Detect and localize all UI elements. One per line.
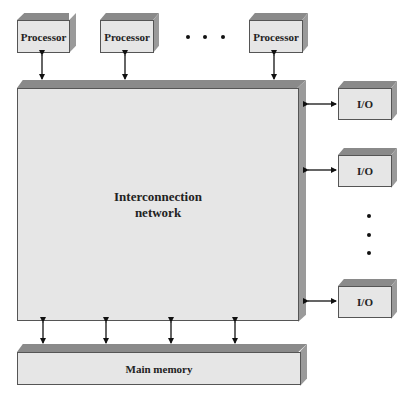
connection-arrows (0, 0, 408, 394)
